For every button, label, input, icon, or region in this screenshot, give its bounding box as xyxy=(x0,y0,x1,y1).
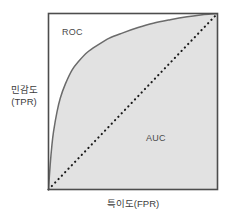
roc-auc-figure: 민감도 (TPR) 특이도(FPR) ROC AUC xyxy=(0,0,236,221)
y-axis-label-line2: (TPR) xyxy=(2,96,46,108)
y-axis-label-line1: 민감도 xyxy=(2,84,46,96)
roc-plot-canvas xyxy=(0,0,236,221)
x-axis-label: 특이도(FPR) xyxy=(48,198,218,210)
auc-annotation-label: AUC xyxy=(146,133,166,143)
roc-annotation-label: ROC xyxy=(62,27,83,37)
y-axis-label: 민감도 (TPR) xyxy=(2,84,46,107)
